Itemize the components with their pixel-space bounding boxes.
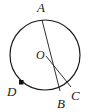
vertex-label-d: D — [7, 85, 16, 98]
segment-oc — [46, 56, 71, 87]
point-marker-d-icon — [19, 80, 24, 85]
geometry-figure: A O D B C — [0, 0, 94, 112]
vertex-label-a: A — [37, 1, 45, 14]
vertex-label-b: B — [57, 97, 65, 110]
center-label-o: O — [36, 49, 45, 61]
vertex-label-c: C — [71, 89, 80, 102]
